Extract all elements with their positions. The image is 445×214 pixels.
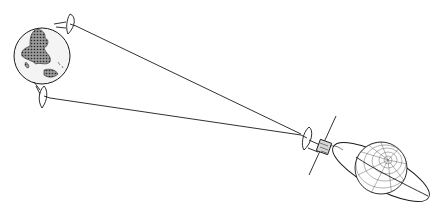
- downlink-signal-line: [50, 98, 301, 135]
- spacecraft-icon: [301, 116, 343, 175]
- high-gain-antenna-dish-icon: [302, 127, 311, 150]
- planet-wireframe-icon: [355, 140, 428, 198]
- ground-station-bottom-antenna-icon: [34, 82, 50, 108]
- earth-globe-icon: [14, 28, 70, 84]
- uplink-signal-line: [76, 26, 301, 134]
- ground-station-top-antenna-icon: [54, 14, 76, 34]
- signal-lines: [50, 26, 301, 135]
- diagram-canvas: Deep space communication link: [0, 0, 445, 214]
